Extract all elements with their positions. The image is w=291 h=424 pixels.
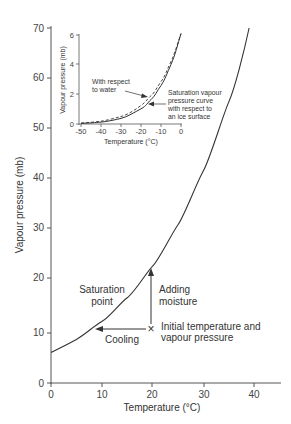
x-tick-0: 0 bbox=[48, 389, 54, 400]
adding-moisture-label-1: Adding bbox=[159, 284, 190, 295]
inset-ice-label-2: pressure curve bbox=[168, 97, 213, 105]
y-tick-0: 0 bbox=[38, 378, 44, 389]
inset-y-axis bbox=[76, 34, 79, 125]
y-tick-30: 30 bbox=[33, 222, 45, 233]
initial-point-label-2: vapour pressure bbox=[161, 332, 234, 343]
initial-point-marker: × bbox=[147, 322, 154, 336]
inset-x-tick-neg30: -30 bbox=[116, 127, 127, 136]
inset-y-tick-0: 0 bbox=[70, 120, 74, 129]
saturation-point-label-2: point bbox=[91, 296, 113, 307]
x-tick-10: 10 bbox=[96, 389, 108, 400]
inset-y-axis-label: Vapour pressure (mb) bbox=[59, 46, 67, 114]
x-tick-30: 30 bbox=[198, 389, 210, 400]
y-axis-label: Vapour pressure (mb) bbox=[14, 157, 25, 254]
cooling-label: Cooling bbox=[105, 334, 139, 345]
x-tick-20: 20 bbox=[146, 389, 158, 400]
inset-y-tick-4: 4 bbox=[70, 60, 74, 69]
main-x-axis bbox=[51, 383, 281, 387]
initial-point-label-1: Initial temperature and bbox=[161, 321, 261, 332]
inset-chart: 6 4 2 0 -50 -40 -30 -20 -10 0 Temperatur… bbox=[59, 31, 222, 146]
y-tick-40: 40 bbox=[33, 172, 45, 183]
inset-x-tick-neg20: -20 bbox=[136, 127, 147, 136]
inset-ice-label-1: Saturation vapour bbox=[168, 89, 222, 97]
inset-x-tick-neg10: -10 bbox=[156, 127, 167, 136]
inset-x-tick-neg40: -40 bbox=[96, 127, 107, 136]
inset-water-arrow bbox=[125, 91, 148, 98]
inset-ice-label-4: an ice surface bbox=[168, 113, 211, 120]
inset-x-tick-0: 0 bbox=[179, 127, 183, 136]
y-tick-10: 10 bbox=[33, 327, 45, 338]
inset-y-tick-2: 2 bbox=[70, 90, 74, 99]
inset-x-axis bbox=[79, 124, 182, 127]
inset-ice-label-3: with respect to bbox=[167, 105, 212, 113]
y-tick-70: 70 bbox=[33, 23, 45, 34]
saturation-curve bbox=[51, 28, 249, 352]
inset-y-tick-6: 6 bbox=[70, 31, 74, 40]
inset-water-label-2: to water bbox=[92, 86, 117, 93]
adding-moisture-arrow bbox=[148, 268, 154, 324]
main-y-axis bbox=[47, 26, 51, 384]
vapour-pressure-chart: 70 60 50 40 30 20 10 0 0 10 20 30 40 Tem… bbox=[0, 0, 291, 424]
y-tick-60: 60 bbox=[33, 72, 45, 83]
saturation-point-label-1: Saturation bbox=[79, 284, 125, 295]
y-tick-50: 50 bbox=[33, 122, 45, 133]
x-axis-label: Temperature (°C) bbox=[124, 402, 201, 413]
inset-x-tick-neg50: -50 bbox=[76, 127, 87, 136]
y-tick-20: 20 bbox=[33, 272, 45, 283]
inset-ice-arrow bbox=[148, 102, 166, 107]
inset-x-axis-label: Temperature (°C) bbox=[104, 138, 158, 146]
adding-moisture-label-2: moisture bbox=[159, 296, 198, 307]
x-tick-40: 40 bbox=[248, 389, 260, 400]
cooling-arrow bbox=[95, 326, 146, 332]
inset-water-label-1: With respect bbox=[92, 78, 130, 86]
